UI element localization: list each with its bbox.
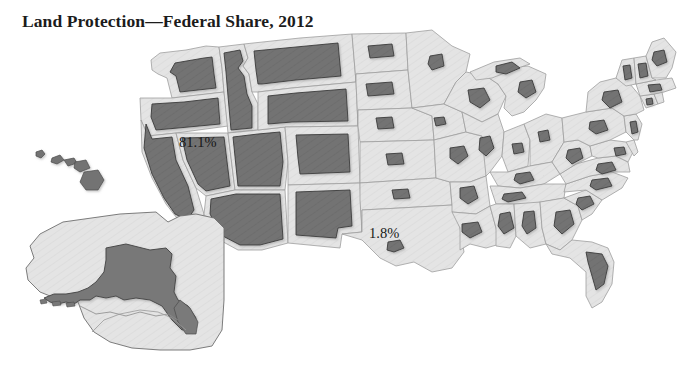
federal-share-indiana (512, 143, 524, 154)
federal-share-new-hampshire (638, 63, 648, 78)
federal-share-south-dakota (366, 82, 394, 96)
inset-alaska (26, 212, 224, 350)
federal-share-north-dakota (368, 44, 394, 58)
federal-share-iowa (434, 117, 446, 126)
federal-share-colorado (296, 134, 350, 174)
federal-share-hawaii (36, 150, 104, 190)
texas-percent-label: 1.8% (369, 225, 399, 242)
hawaii-island-hawaii (80, 170, 104, 190)
hawaii-island-kauai (36, 150, 45, 158)
us-map (0, 0, 689, 380)
federal-share-nebraska (376, 117, 394, 129)
map-figure: Land Protection—Federal Share, 2012 (0, 0, 689, 380)
federal-share-connecticut (646, 98, 653, 105)
federal-share-oklahoma (392, 189, 410, 199)
federal-share-kansas (386, 153, 404, 165)
hawaii-island-maui (74, 160, 90, 172)
federal-share-utah (233, 132, 283, 186)
hawaii-island-oahu (51, 155, 64, 164)
federal-share-ohio (538, 130, 550, 142)
federal-share-massachusetts (648, 84, 662, 92)
state-nebraska (358, 108, 434, 142)
nevada-percent-label: 81.1% (179, 134, 216, 151)
federal-share-vermont (623, 65, 632, 80)
inset-hawaii (36, 150, 104, 190)
federal-share-maryland (614, 147, 626, 156)
